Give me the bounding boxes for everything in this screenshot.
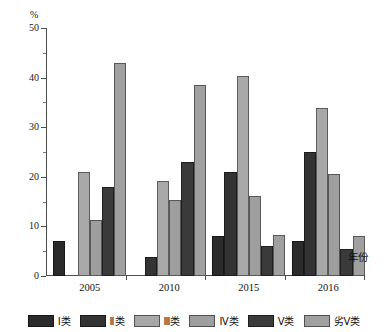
legend-item[interactable]: Ⅲ类 [134, 315, 181, 327]
legend-swatch [28, 315, 54, 327]
bar [237, 76, 249, 276]
y-tick-minor [43, 202, 46, 203]
bar [316, 108, 328, 276]
y-tick-major [41, 127, 46, 128]
legend-item[interactable]: 劣V类 [304, 315, 361, 327]
bar [224, 172, 236, 276]
chart-legend: I类Ⅱ类Ⅲ类Ⅳ类V类劣V类 [0, 306, 388, 332]
y-tick-label: 10 [29, 221, 39, 231]
y-tick-major [41, 226, 46, 227]
legend-swatch [248, 315, 274, 327]
x-tick-label: 2016 [318, 282, 339, 293]
x-tick-label: 2005 [79, 282, 100, 293]
bar [157, 181, 169, 276]
bar [194, 85, 206, 276]
x-tick-label: 2015 [238, 282, 259, 293]
legend-swatch [189, 315, 215, 327]
y-tick-label: 20 [29, 172, 39, 182]
bar [53, 241, 65, 276]
x-axis-title: 年份 [348, 252, 368, 263]
bar [145, 257, 157, 276]
y-tick-minor [43, 53, 46, 54]
legend-label: Ⅱ类 [110, 316, 125, 327]
legend-label: I类 [58, 316, 71, 327]
bar [78, 172, 90, 276]
bar [169, 200, 181, 276]
x-tick [364, 276, 365, 280]
chart-root: % 01020304050 2005201020152016 年份 I类Ⅱ类Ⅲ类… [0, 0, 388, 332]
legend-item[interactable]: I类 [28, 315, 71, 327]
bar [114, 63, 126, 276]
legend-label: Ⅲ类 [164, 316, 181, 327]
bar [102, 187, 114, 276]
bar [304, 152, 316, 276]
y-axis-unit-label: % [30, 10, 38, 20]
y-tick-label: 50 [29, 23, 39, 33]
x-tick [205, 276, 206, 280]
legend-item[interactable]: Ⅳ类 [189, 315, 238, 327]
legend-label: 劣V类 [334, 316, 361, 327]
bar [273, 235, 285, 276]
y-tick-minor [43, 251, 46, 252]
x-tick [285, 276, 286, 280]
legend-item[interactable]: Ⅱ类 [80, 315, 125, 327]
y-tick-label: 40 [29, 73, 39, 83]
legend-swatch [304, 315, 330, 327]
y-tick-minor [43, 152, 46, 153]
y-tick-minor [43, 102, 46, 103]
bar [249, 196, 261, 276]
x-tick-label: 2010 [159, 282, 180, 293]
bar [328, 174, 340, 276]
plot-area: 01020304050 [46, 28, 364, 276]
y-tick-major [41, 28, 46, 29]
y-tick-major [41, 276, 46, 277]
legend-item[interactable]: V类 [248, 315, 295, 327]
bar [181, 162, 193, 276]
legend-label: Ⅳ类 [219, 316, 238, 327]
legend-swatch [134, 315, 160, 327]
y-axis-line [46, 28, 47, 276]
x-tick [126, 276, 127, 280]
y-tick-major [41, 177, 46, 178]
y-tick-label: 0 [34, 271, 39, 281]
legend-swatch [80, 315, 106, 327]
y-tick-major [41, 78, 46, 79]
legend-label: V类 [278, 316, 295, 327]
bar [261, 246, 273, 276]
y-tick-label: 30 [29, 122, 39, 132]
bar [212, 236, 224, 276]
bar [90, 220, 102, 276]
bar [292, 241, 304, 276]
